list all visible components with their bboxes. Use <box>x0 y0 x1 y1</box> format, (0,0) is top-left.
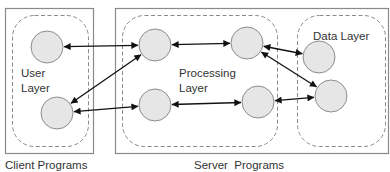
processing-node-p3 <box>139 89 171 121</box>
data-node-d1 <box>303 41 335 73</box>
processing-node-p4 <box>242 86 274 118</box>
user-layer-label-line1: User <box>21 66 45 80</box>
data-node-d2 <box>315 80 347 112</box>
processing-layer-label-line2: Layer <box>179 81 208 95</box>
user-node-u2 <box>41 97 73 129</box>
user-node-u1 <box>31 31 63 63</box>
arrow-p2-d1 <box>264 46 303 54</box>
arrow-p4-d2 <box>275 97 314 100</box>
server-programs-caption: Server Programs <box>194 158 284 172</box>
arrow-u2-p3 <box>74 106 138 111</box>
arrow-p3-p4 <box>172 102 241 104</box>
data-layer-label: Data Layer <box>313 29 369 43</box>
arrow-p1-u2 <box>71 55 141 104</box>
arrow-u1-p1 <box>64 45 138 46</box>
client-programs-caption: Client Programs <box>5 158 87 172</box>
processing-layer-label-line1: Processing <box>179 66 236 80</box>
processing-node-p1 <box>139 29 171 61</box>
user-layer-label-line2: Layer <box>21 81 50 95</box>
arrow-p1-p2 <box>172 43 230 44</box>
processing-node-p2 <box>231 27 263 59</box>
